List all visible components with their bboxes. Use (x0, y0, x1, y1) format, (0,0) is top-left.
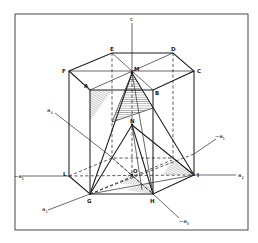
point-M (131, 72, 134, 75)
label-A: A (84, 83, 89, 89)
label-neg-a1-axis: −a 1 (215, 133, 226, 141)
label-a3-axis: a 3 (47, 107, 54, 115)
label-G: G (87, 198, 92, 204)
label-N: N (130, 118, 135, 124)
point-N (131, 124, 134, 127)
hatched-plane-left (90, 90, 112, 121)
svg-text:3: 3 (187, 221, 190, 226)
neg-a3-axis (153, 194, 179, 218)
label-neg-a3-axis: −a 3 (179, 218, 190, 226)
label-C: C (197, 68, 201, 74)
label-E: E (110, 46, 114, 52)
svg-text:3: 3 (51, 110, 54, 115)
line-MI (132, 73, 194, 175)
crystal-diagram: A B C D E F G H I L M N O c a 3 −a 1 −a … (0, 0, 258, 243)
label-O: O (133, 168, 138, 174)
label-M: M (134, 66, 139, 72)
svg-text:2: 2 (22, 176, 25, 181)
axes (22, 23, 236, 218)
a3-axis (55, 113, 109, 155)
label-neg-a2-axis: −a 2 (14, 173, 25, 181)
label-c-axis: c (130, 16, 133, 22)
svg-text:2: 2 (242, 175, 245, 180)
hexagonal-prism-figure: A B C D E F G H I L M N O c a 3 −a 1 −a … (0, 0, 258, 243)
hatched-plane-center (120, 170, 142, 185)
label-B: B (155, 90, 159, 96)
label-L: L (63, 171, 67, 177)
label-a2-axis: a 2 (238, 172, 245, 180)
label-I: I (197, 172, 199, 178)
a1-axis (48, 194, 90, 210)
neg-a1-axis (194, 139, 216, 154)
point-O (131, 174, 133, 176)
line-NI (132, 125, 194, 175)
svg-text:1: 1 (223, 136, 226, 141)
label-D: D (171, 46, 176, 52)
label-a1-axis: a 1 (42, 206, 49, 214)
label-F: F (62, 68, 66, 74)
label-H: H (150, 198, 155, 204)
